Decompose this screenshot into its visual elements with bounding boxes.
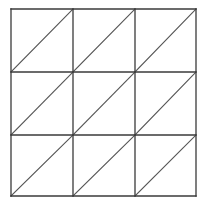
- figure-canvas: [0, 0, 207, 207]
- grid-diagram: [0, 0, 207, 207]
